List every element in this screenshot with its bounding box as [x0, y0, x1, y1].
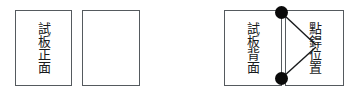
- panel-test-plate-front: 試板正面: [15, 10, 72, 86]
- panel-spot-weld-location: 點銲位置: [285, 10, 344, 86]
- panel-blank-plate: [82, 10, 140, 86]
- panel-spot-weld-location-label: 點銲位置: [286, 11, 343, 85]
- panel-test-plate-back-label: 試板背面: [225, 11, 281, 85]
- spot-weld-marker-bottom-icon: [275, 72, 288, 85]
- spot-weld-marker-top-icon: [275, 6, 288, 19]
- spot-weld-test-plate-diagram: 試板正面 試板背面 點銲位置: [0, 0, 352, 96]
- panel-test-plate-front-label: 試板正面: [16, 11, 71, 85]
- panel-blank-plate-label: [83, 11, 139, 85]
- panel-test-plate-back: 試板背面: [224, 10, 282, 86]
